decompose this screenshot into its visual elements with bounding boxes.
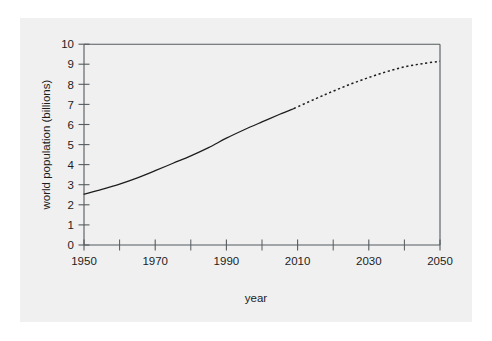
- y-axis-title: world population (billions): [40, 80, 52, 211]
- x-tick-label-2010: 2010: [285, 255, 311, 267]
- x-tick-label-1990: 1990: [214, 255, 240, 267]
- y-tick-label-7: 7: [68, 99, 74, 111]
- y-axis-tick-labels: 0 1 2 3 4 5 6 7 8 9 10: [61, 38, 74, 251]
- x-axis-title: year: [245, 292, 268, 304]
- y-tick-label-2: 2: [68, 199, 74, 211]
- y-tick-label-10: 10: [61, 38, 74, 50]
- y-tick-label-3: 3: [68, 179, 74, 191]
- chart-figure: 0 1 2 3 4 5 6 7 8 9 10: [0, 0, 492, 341]
- y-tick-label-1: 1: [68, 219, 74, 231]
- x-tick-label-2030: 2030: [356, 255, 382, 267]
- x-tick-label-1950: 1950: [71, 255, 97, 267]
- plot-area: 0 1 2 3 4 5 6 7 8 9 10: [0, 0, 492, 341]
- line-chart-svg: 0 1 2 3 4 5 6 7 8 9 10: [0, 0, 492, 341]
- x-tick-label-1970: 1970: [142, 255, 168, 267]
- y-tick-label-9: 9: [68, 58, 74, 70]
- y-tick-label-5: 5: [68, 139, 74, 151]
- y-tick-label-0: 0: [68, 239, 74, 251]
- x-tick-label-2050: 2050: [427, 255, 453, 267]
- series-projection-line: [294, 61, 440, 108]
- y-tick-label-8: 8: [68, 79, 74, 91]
- y-tick-label-4: 4: [68, 159, 75, 171]
- axis-frame: [84, 44, 440, 245]
- x-axis-tick-labels: 1950 1970 1990 2010 2030 2050: [71, 255, 453, 267]
- series-historical-line: [84, 108, 294, 194]
- data-series-group: [84, 61, 440, 194]
- y-tick-label-6: 6: [68, 119, 74, 131]
